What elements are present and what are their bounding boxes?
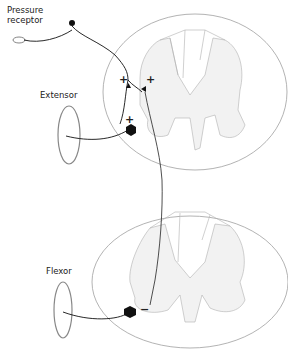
inhibitory-sign: − [140,305,149,315]
receptor-label: Pressure receptor [7,5,43,25]
excitatory-sign: + [125,115,134,125]
flexor-muscle-icon [54,282,72,338]
receptor-label-line1: Pressure [7,5,43,15]
excitatory-sign: + [146,75,155,85]
excitatory-sign: + [119,75,128,85]
reflex-diagram [0,0,288,354]
upper-spinal-cord [103,14,287,170]
flexor-label: Flexor [46,266,72,276]
receptor-ending-icon [13,37,25,43]
receptor-label-line2: receptor [7,15,43,25]
dorsal-root-ganglion-icon [69,20,75,26]
lower-spinal-cord [92,212,288,348]
extensor-muscle-icon [58,106,80,164]
extensor-label: Extensor [40,90,77,100]
